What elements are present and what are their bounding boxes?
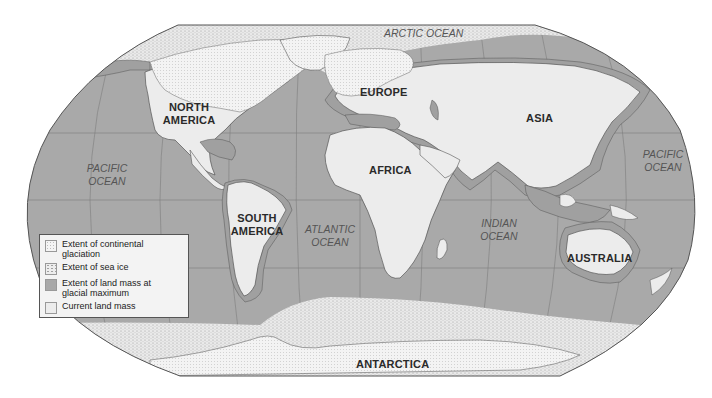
legend-item-glaciation: Extent of continental glaciation	[45, 239, 184, 259]
label-south-america: SOUTH AMERICA	[226, 212, 288, 238]
legend-item-glacial-land: Extent of land mass at glacial maximum	[45, 278, 184, 298]
label-south-america-line2: AMERICA	[226, 225, 288, 238]
label-atlantic-ocean: ATLANTIC OCEAN	[302, 223, 358, 249]
current-land-swatch-icon	[45, 302, 57, 314]
label-pacific-west-line1: PACIFIC	[82, 162, 132, 175]
label-north-america-line2: AMERICA	[156, 114, 222, 127]
legend-label-glaciation: Extent of continental glaciation	[62, 239, 184, 259]
label-indian-line2: OCEAN	[475, 230, 523, 243]
map-legend: Extent of continental glaciation Extent …	[39, 234, 189, 318]
label-pacific-ocean-east: PACIFIC OCEAN	[637, 148, 689, 174]
label-indian-ocean: INDIAN OCEAN	[475, 217, 523, 243]
label-atlantic-line2: OCEAN	[302, 236, 358, 249]
legend-item-sea-ice: Extent of sea ice	[45, 262, 184, 275]
label-australia: AUSTRALIA	[567, 252, 632, 265]
label-pacific-ocean-west: PACIFIC OCEAN	[82, 162, 132, 188]
legend-item-current-land: Current land mass	[45, 301, 184, 314]
glaciation-swatch-icon	[45, 240, 57, 252]
label-antarctica: ANTARCTICA	[356, 358, 429, 371]
glacial-land-swatch-icon	[45, 279, 57, 291]
legend-label-glacial-land: Extent of land mass at glacial maximum	[62, 278, 177, 298]
label-atlantic-line1: ATLANTIC	[302, 223, 358, 236]
label-arctic-ocean: ARCTIC OCEAN	[384, 27, 463, 40]
world-map-glacial-maximum	[0, 0, 712, 398]
label-pacific-west-line2: OCEAN	[82, 175, 132, 188]
label-north-america-line1: NORTH	[156, 101, 222, 114]
label-indian-line1: INDIAN	[475, 217, 523, 230]
label-pacific-east-line1: PACIFIC	[637, 148, 689, 161]
label-asia: ASIA	[526, 112, 553, 125]
legend-label-current-land: Current land mass	[62, 301, 136, 311]
label-north-america: NORTH AMERICA	[156, 101, 222, 127]
label-pacific-east-line2: OCEAN	[637, 161, 689, 174]
label-south-america-line1: SOUTH	[226, 212, 288, 225]
label-europe: EUROPE	[360, 86, 408, 99]
label-africa: AFRICA	[369, 164, 412, 177]
legend-label-sea-ice: Extent of sea ice	[62, 262, 129, 272]
sea-ice-swatch-icon	[45, 263, 57, 275]
